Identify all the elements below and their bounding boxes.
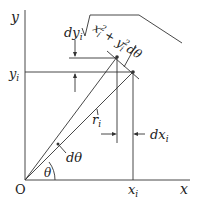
polar-coordinate-diagram: y x O dyi yi ri dxi xi dθ θ xi2+ yi2dθ [0,0,198,205]
ri-label: ri [92,112,101,129]
x-axis-label: x [180,181,188,197]
dtheta-leader [58,144,66,153]
dy-label: dyi [64,25,83,42]
diagram-canvas: y x O dyi yi ri dxi xi dθ θ xi2+ yi2dθ [0,0,198,205]
xi-label: xi [128,182,138,199]
dx-arrow-right [112,132,117,136]
dtheta-label: dθ [66,150,82,165]
dy-arrow-down [73,52,77,57]
y-axis-label: y [10,9,20,25]
dtheta-point [57,143,60,146]
theta-label: θ [44,166,52,180]
yi-label: yi [8,66,19,83]
dx-arrow-left [133,132,138,136]
point-i [131,70,135,74]
dx-label: dxi [150,127,169,144]
dy-arrow-up [73,73,77,78]
upper-point [115,55,119,59]
origin-label: O [15,182,26,197]
